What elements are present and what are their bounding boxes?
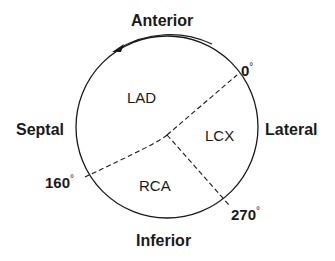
- angle-270: 270°: [231, 206, 260, 223]
- angle-0: 0°: [241, 62, 253, 79]
- label-anterior: Anterior: [131, 12, 193, 30]
- angle-160: 160°: [45, 174, 74, 191]
- divider-0-deg: [167, 75, 237, 135]
- region-lad: LAD: [127, 89, 156, 106]
- label-lateral: Lateral: [265, 121, 317, 139]
- divider-270-deg: [167, 135, 229, 205]
- rotation-arrowhead-icon: [112, 44, 124, 52]
- region-lcx: LCX: [205, 127, 234, 144]
- label-septal: Septal: [16, 121, 64, 139]
- label-inferior: Inferior: [136, 232, 191, 250]
- region-rca: RCA: [139, 177, 171, 194]
- divider-160-deg: [85, 135, 167, 177]
